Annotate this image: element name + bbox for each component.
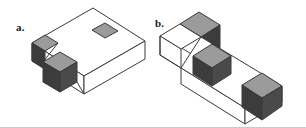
figure-b-label: b. (155, 18, 164, 29)
figure-b-group (160, 12, 282, 124)
bottom-divider (0, 127, 306, 128)
isometric-blocks-illustration (0, 0, 306, 128)
figure-a-group (32, 8, 145, 94)
figure-canvas: a. b. (0, 0, 306, 128)
figure-a-label: a. (16, 22, 25, 33)
